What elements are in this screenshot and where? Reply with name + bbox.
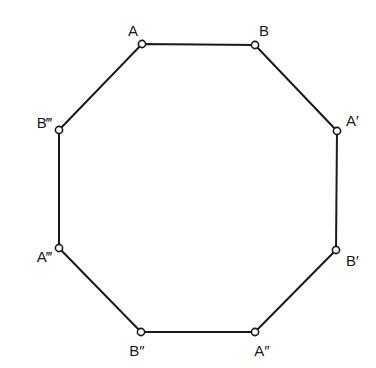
vertex-b2-point [137,328,144,335]
vertex-a2-label: A″ [254,342,270,359]
vertex-b-label: B [259,22,269,39]
octagon-outline [59,44,337,332]
vertex-a1-label: A′ [346,112,359,129]
vertex-a3-label: A‴ [37,248,53,265]
vertex-b3-label: B‴ [37,114,53,131]
vertex-a2-point [251,328,258,335]
vertex-a3-point [55,244,62,251]
vertex-b1-point [332,246,339,253]
vertex-b3-point [55,126,62,133]
vertex-a1-point [333,127,340,134]
label-group: ABA′B′A″B″A‴B‴ [37,22,359,359]
vertex-a-point [138,40,145,47]
vertex-b-point [251,41,258,48]
octagon-diagram: ABA′B′A″B″A‴B‴ [0,0,376,368]
vertex-group [55,40,340,335]
vertex-b2-label: B″ [129,342,145,359]
vertex-a-label: A [128,22,138,39]
vertex-b1-label: B′ [346,252,359,269]
